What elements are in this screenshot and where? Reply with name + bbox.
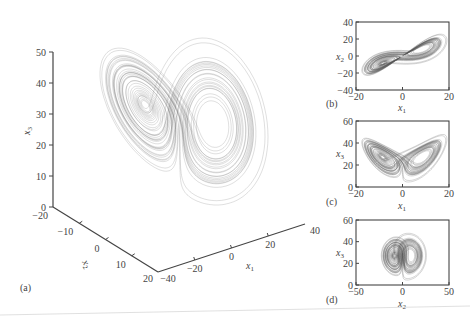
panel-label-d: (d)	[326, 294, 338, 306]
ticks-c: −200200204060	[343, 116, 454, 200]
y-tick-label: 0	[348, 182, 353, 193]
y-tick-label: 40	[343, 17, 353, 28]
tick-mark	[194, 257, 195, 260]
panel-label-c: (c)	[326, 196, 337, 208]
x2-tick-label: −20	[32, 210, 48, 221]
panel-label-b: (b)	[326, 98, 338, 110]
y-tick-label: 60	[343, 116, 353, 127]
x3-tick-label: 30	[36, 109, 46, 120]
y-tick-label: 40	[343, 236, 353, 247]
x-axis-label-d: x2	[397, 298, 406, 311]
x-tick-label: 50	[444, 286, 454, 297]
x-tick-label: 20	[444, 91, 454, 102]
x3-tick-label: 20	[36, 140, 46, 151]
plot-frame-b	[356, 22, 449, 90]
panel-d-x2-x3: −500500204060 x3 x2 (d)	[326, 215, 454, 312]
trajectory-x2-x3	[381, 233, 426, 280]
y-tick-label: 60	[343, 215, 353, 226]
y-tick-label: −20	[337, 68, 353, 79]
trajectory-3d	[100, 38, 268, 205]
y-axis-label-d: x3	[335, 247, 344, 260]
x-tick-label: 0	[400, 91, 405, 102]
tick-mark	[132, 254, 135, 256]
tick-mark	[267, 233, 268, 236]
x1-tick-label: 0	[229, 251, 234, 262]
ticks-b: −20020−40−2002040	[337, 17, 454, 103]
y-tick-label: 40	[343, 138, 353, 149]
x-axis-label-b: x1	[397, 102, 406, 115]
x3-tick-label: 50	[36, 47, 46, 58]
x2-tick-label: 20	[143, 273, 153, 284]
x1-tick-label: 40	[310, 225, 320, 236]
x3-axis-ticks: 01020304050	[36, 47, 53, 213]
x-tick-label: 0	[400, 188, 405, 199]
x1-tick-label: 20	[265, 239, 275, 250]
panel-c-x1-x3: −200200204060 x3 x1 (c)	[326, 116, 454, 214]
x2-tick-label: 10	[116, 259, 126, 270]
y-tick-label: 20	[343, 258, 353, 269]
x1-tick-label: −40	[160, 273, 176, 284]
page-divider-line	[0, 306, 470, 315]
x1-axis-ticks: −40−2002040	[160, 225, 320, 284]
x2-axis-ticks: −20−1001020	[32, 210, 153, 284]
lorenz-attractor-figure: 01020304050 x3 −20−1001020 x2 −40−200204…	[0, 0, 470, 325]
trajectory-x1-x2	[362, 34, 447, 75]
x1-tick-label: −20	[187, 263, 203, 274]
y-tick-label: 20	[343, 34, 353, 45]
panel-a-3d-plot: 01020304050 x3 −20−1001020 x2 −40−200204…	[20, 38, 320, 294]
panel-b-x1-x2: −20020−40−2002040 x2 x1 (b)	[326, 17, 454, 116]
panel-label-a: (a)	[20, 282, 31, 294]
y-tick-label: −40	[337, 85, 353, 96]
x1-axis-label: x1	[245, 260, 254, 273]
x-tick-label: 0	[400, 286, 405, 297]
tick-mark	[231, 245, 232, 248]
x3-tick-label: 10	[36, 171, 46, 182]
y-tick-label: 0	[348, 280, 353, 291]
x2-axis-label: x2	[78, 257, 94, 272]
x-tick-label: 20	[444, 188, 454, 199]
tick-mark	[106, 238, 109, 240]
y-tick-label: 20	[343, 160, 353, 171]
trajectory-x1-x3	[362, 135, 447, 183]
y-axis-label-b: x2	[335, 51, 344, 64]
x2-tick-label: 0	[95, 243, 100, 254]
x-axis-label-c: x1	[397, 200, 406, 213]
tick-mark	[79, 221, 82, 223]
y-axis-label-c: x3	[335, 148, 344, 161]
x2-tick-label: −10	[58, 226, 74, 237]
x3-axis-label: x3	[21, 127, 34, 136]
y-tick-label: 0	[348, 51, 353, 62]
x3-tick-label: 40	[36, 78, 46, 89]
